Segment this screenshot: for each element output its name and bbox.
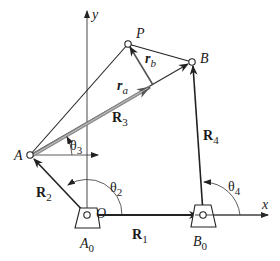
joint-B bbox=[189, 59, 195, 65]
label-O: O bbox=[96, 206, 106, 221]
label-theta2: θ2 bbox=[110, 180, 122, 198]
joint-P bbox=[125, 41, 131, 47]
four-bar-linkage-diagram: y x P B A O A0 B0 R2 R1 R3 R4 ra rb θ2 θ… bbox=[0, 0, 280, 261]
label-R3: R3 bbox=[112, 110, 128, 128]
coupler-edge-AP bbox=[30, 44, 128, 155]
y-axis-label: y bbox=[90, 7, 99, 22]
label-A: A bbox=[13, 148, 23, 163]
joint-B0 bbox=[200, 212, 206, 218]
label-rb: rb bbox=[145, 51, 156, 69]
label-R4: R4 bbox=[203, 128, 219, 146]
label-ra: ra bbox=[117, 78, 128, 96]
label-R2: R2 bbox=[36, 185, 52, 203]
label-theta4: θ4 bbox=[228, 179, 241, 197]
label-B: B bbox=[200, 51, 209, 66]
label-A0: A0 bbox=[79, 236, 95, 254]
joint-A bbox=[27, 152, 33, 158]
vector-R4 bbox=[193, 66, 203, 213]
x-axis-label: x bbox=[261, 197, 269, 212]
label-B0: B0 bbox=[193, 234, 208, 252]
joint-O bbox=[84, 212, 90, 218]
label-R1: R1 bbox=[132, 227, 148, 245]
label-P: P bbox=[135, 26, 145, 41]
